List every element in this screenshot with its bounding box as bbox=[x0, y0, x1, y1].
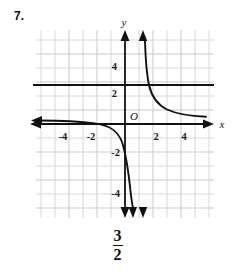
y-tick-label: 4 bbox=[112, 61, 118, 72]
x-tick-label: 4 bbox=[181, 131, 187, 142]
y-tick-label: 2 bbox=[112, 88, 117, 99]
exercise-figure: 7. bbox=[0, 0, 235, 273]
y-tick-label: -4 bbox=[111, 188, 120, 199]
fraction: 3 2 bbox=[112, 228, 124, 263]
asymptote-value-caption: 3 2 bbox=[0, 228, 235, 263]
x-axis-label: x bbox=[219, 118, 225, 130]
origin-label: O bbox=[130, 110, 138, 122]
coordinate-axes bbox=[30, 30, 214, 218]
hyperbola-left-branch bbox=[31, 116, 137, 218]
fraction-numerator: 3 bbox=[112, 228, 124, 245]
x-tick-label: -4 bbox=[59, 131, 68, 142]
x-tick-label: -2 bbox=[87, 131, 96, 142]
hyperbola-right-branch bbox=[145, 41, 206, 117]
fraction-denominator: 2 bbox=[112, 246, 124, 263]
y-axis-label: y bbox=[121, 16, 127, 28]
x-tick-label: 2 bbox=[153, 131, 158, 142]
y-tick-label: -2 bbox=[111, 147, 120, 158]
